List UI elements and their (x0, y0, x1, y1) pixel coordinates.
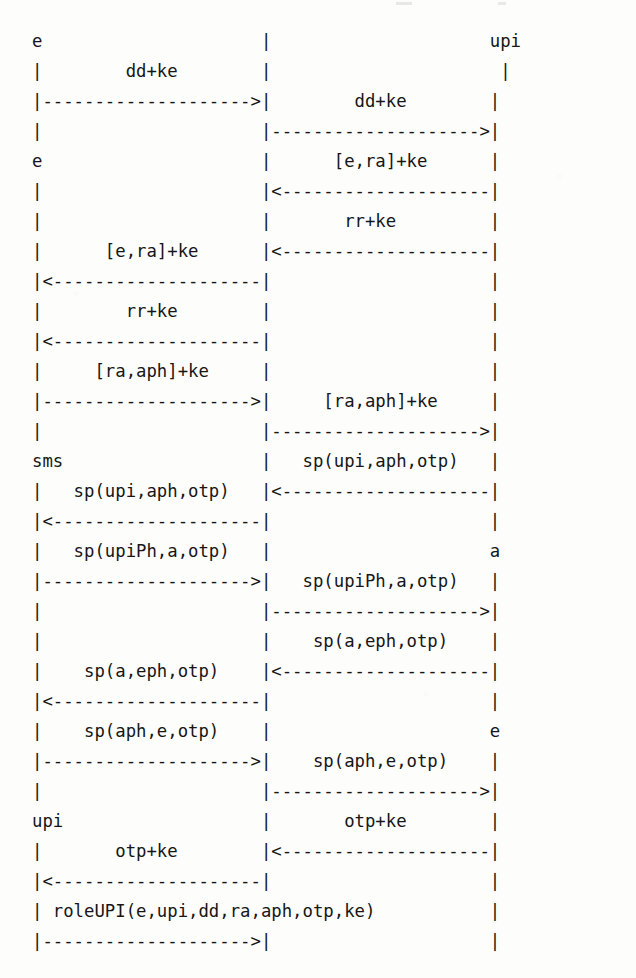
sequence-diagram-figure: e | upi | dd+ke | | |-------------------… (0, 0, 636, 978)
scan-residue-artifacts (0, 0, 636, 10)
ascii-sequence-diagram-text: e | upi | dd+ke | | |-------------------… (32, 26, 521, 956)
